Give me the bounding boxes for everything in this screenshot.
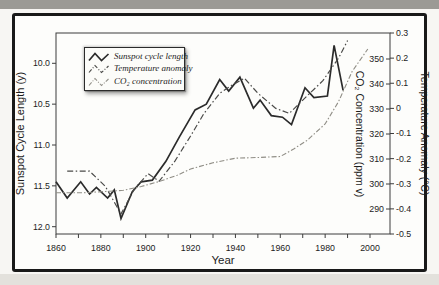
x-tick-label: 1900 — [136, 243, 156, 253]
sunspot-line-sample-icon — [88, 51, 111, 62]
left-tick-label: 10.0 — [33, 58, 50, 68]
left-tick-label: 11.0 — [34, 140, 51, 150]
temp-axis-title: Temperature Anomaly (°C) — [419, 72, 431, 196]
temp-tick-label: -0.4 — [396, 204, 411, 214]
x-tick-label: 1980 — [315, 243, 335, 253]
x-tick-label: 1880 — [91, 243, 111, 253]
temp-tick-label: 0.1 — [396, 78, 408, 88]
x-tick-label: 1920 — [181, 243, 201, 253]
temp-tick-label: -0.3 — [396, 179, 411, 189]
legend-item-co2: CO₂ concentration — [88, 76, 181, 88]
left-axis-title: Sunspot Cycle Length (y) — [14, 72, 26, 196]
temp-tick-label: 0 — [396, 103, 401, 113]
legend-label-co2: CO₂ concentration — [114, 77, 182, 86]
chart-canvas: 18601880190019201940196019802000Year10.0… — [0, 0, 439, 285]
co2-tick-label: 300 — [369, 179, 384, 189]
left-tick-label: 10.5 — [33, 99, 50, 109]
temperature-line-sample-icon — [88, 63, 111, 74]
x-axis-title: Year — [211, 254, 234, 266]
co2-tick-label: 350 — [369, 54, 384, 64]
co2-tick-label: 320 — [369, 129, 384, 139]
legend-item-sunspot: Sunspot cycle length — [88, 50, 181, 62]
temp-tick-label: -0.5 — [396, 229, 411, 239]
right-axis-temperature: 0.30.20.10-0.1-0.2-0.3-0.4-0.5Temperatur… — [390, 28, 431, 239]
temp-tick-label: -0.2 — [396, 154, 411, 164]
x-tick-label: 1940 — [226, 243, 246, 253]
co2-tick-label: 310 — [369, 154, 384, 164]
legend-label-sunspot: Sunspot cycle length — [114, 52, 188, 61]
temp-tick-label: 0.3 — [396, 28, 408, 38]
left-tick-label: 12.0 — [33, 222, 50, 232]
right-axis-co2: 350340330320310300290CO₂ Concentration (… — [354, 54, 390, 214]
x-tick-label: 1860 — [46, 243, 66, 253]
left-axis-sunspot: 10.010.511.011.512.0Sunspot Cycle Length… — [14, 58, 56, 231]
temp-tick-label: 0.2 — [396, 53, 408, 63]
legend-label-temperature: Temperature anomaly — [114, 64, 193, 73]
co2-tick-label: 340 — [369, 79, 384, 89]
legend-item-temperature: Temperature anomaly — [88, 63, 181, 75]
chart-legend: Sunspot cycle length Temperature anomaly… — [84, 47, 185, 91]
co2-tick-label: 330 — [369, 104, 384, 114]
left-tick-label: 11.5 — [34, 181, 51, 191]
co2-line-sample-icon — [88, 76, 111, 87]
x-tick-label: 2000 — [360, 243, 380, 253]
temp-tick-label: -0.1 — [396, 128, 411, 138]
co2-axis-title: CO₂ Concentration (ppm v) — [354, 71, 366, 198]
co2-tick-label: 290 — [369, 204, 384, 214]
x-tick-label: 1960 — [271, 243, 291, 253]
x-axis: 18601880190019201940196019802000Year — [46, 234, 380, 266]
